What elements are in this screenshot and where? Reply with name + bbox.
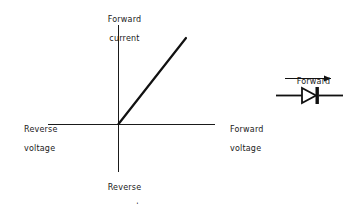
label-diode-forward-text: Forward: [297, 77, 331, 86]
label-diode-forward: Forward: [285, 67, 331, 96]
diode-schematic: [0, 0, 345, 204]
figure-canvas: Forward current Reverse current Reverse …: [0, 0, 345, 204]
